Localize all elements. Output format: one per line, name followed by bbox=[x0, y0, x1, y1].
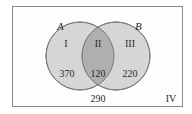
region-label-iii: III bbox=[125, 38, 135, 49]
region-value-iii: 220 bbox=[123, 68, 138, 79]
region-value-i: 370 bbox=[60, 68, 75, 79]
set-label-a: A bbox=[56, 20, 64, 32]
set-label-b: B bbox=[135, 20, 142, 32]
region-label-iv: IV bbox=[166, 93, 177, 104]
venn-diagram: A B I II III 370 120 220 290 IV bbox=[0, 0, 192, 114]
region-label-ii: II bbox=[95, 38, 102, 49]
region-label-i: I bbox=[64, 38, 67, 49]
region-value-iv: 290 bbox=[91, 93, 106, 104]
region-value-ii: 120 bbox=[91, 68, 106, 79]
